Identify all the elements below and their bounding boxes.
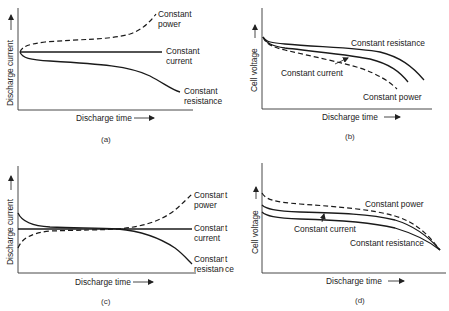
panel-d-label-constant-power: Constant power: [365, 199, 424, 209]
panel-c: Discharge current Discharge time (c) Con…: [5, 166, 233, 306]
svg-text:current: current: [194, 233, 221, 243]
svg-text:Constant: Constant: [194, 223, 228, 233]
panel-a-ylabel: Discharge current: [5, 15, 15, 106]
discharge-curves-figure: Discharge current Discharge time (a) Con…: [0, 0, 449, 311]
panel-c-curve-constant-resistance: [18, 213, 192, 264]
panel-a-label-constant-resistance: Constant resistance: [184, 86, 223, 106]
svg-text:Cell voltage: Cell voltage: [249, 48, 259, 92]
svg-text:Discharge time: Discharge time: [76, 113, 132, 123]
panel-b-label-constant-resistance: Constant resistance: [351, 38, 425, 48]
svg-text:Discharge time: Discharge time: [322, 112, 378, 122]
svg-text:Discharge time: Discharge time: [326, 276, 382, 286]
panel-a-label-constant-current: Constant current: [166, 46, 200, 66]
panel-b-label-constant-power: Constant power: [363, 92, 422, 102]
panel-d: Cell voltage Discharge time (d) Constant…: [250, 163, 446, 305]
svg-text:power: power: [158, 19, 181, 29]
panel-c-label-constant-current: Constant current: [194, 223, 228, 243]
panel-a-xlabel: Discharge time: [76, 113, 154, 123]
panel-b-caption: (b): [345, 132, 355, 141]
svg-text:Constant: Constant: [184, 86, 218, 96]
svg-text:Constant current: Constant current: [294, 224, 357, 234]
panel-c-caption: (c): [101, 297, 111, 306]
svg-text:Constant: Constant: [166, 46, 200, 56]
pointer-arrow-icon: [322, 214, 324, 222]
panel-b-ylabel: Cell voltage: [249, 25, 259, 92]
svg-text:Cell voltage: Cell voltage: [250, 210, 260, 254]
panel-c-ylabel: Discharge current: [5, 176, 15, 265]
svg-text:power: power: [194, 200, 217, 210]
svg-text:Discharge time: Discharge time: [75, 277, 131, 287]
panel-a-label-constant-power: Constant power: [158, 9, 192, 29]
svg-text:Constant: Constant: [194, 190, 228, 200]
svg-text:ce: ce: [225, 264, 234, 274]
svg-text:Constant: Constant: [158, 9, 192, 19]
panel-d-label-constant-current: Constant current: [294, 214, 357, 234]
panel-c-axes: [18, 166, 196, 273]
panel-a-curve-constant-power: [20, 14, 156, 52]
panel-d-label-constant-resistance: Constant resistance: [350, 238, 424, 248]
panel-c-curve-constant-power: [18, 194, 192, 248]
svg-text:Constant: Constant: [194, 254, 228, 264]
panel-c-xlabel: Discharge time: [75, 277, 153, 287]
svg-text:Constant current: Constant current: [281, 68, 344, 78]
panel-b: Cell voltage Discharge time (b) Constant…: [249, 8, 432, 141]
svg-text:current: current: [166, 56, 193, 66]
panel-a-caption: (a): [101, 135, 111, 144]
panel-a-curve-constant-resistance: [20, 52, 180, 92]
panel-d-xlabel: Discharge time: [326, 276, 404, 286]
svg-text:Discharge current: Discharge current: [5, 39, 15, 106]
svg-text:Discharge current: Discharge current: [5, 198, 15, 265]
panel-c-label-constant-power: Constant power: [194, 190, 228, 210]
panel-a: Discharge current Discharge time (a) Con…: [5, 8, 223, 144]
panel-b-label-constant-current: Constant current: [281, 58, 348, 78]
panel-b-xlabel: Discharge time: [322, 112, 400, 122]
svg-text:resistance: resistance: [184, 96, 223, 106]
panel-d-caption: (d): [355, 296, 365, 305]
